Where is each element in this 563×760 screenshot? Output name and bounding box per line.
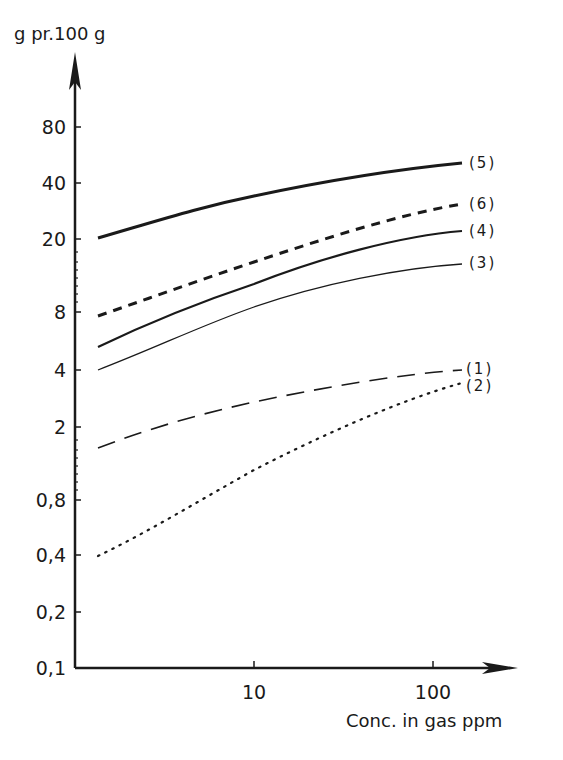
y-tick-40: 40 — [42, 172, 66, 194]
series-label-6: (6) — [469, 195, 496, 213]
series-label-5: (5) — [469, 154, 496, 172]
y-axis-title: g pr.100 g — [14, 23, 106, 44]
y-tick-labels: 80 40 20 8 4 2 0,8 0,4 0,2 0,1 — [36, 116, 66, 679]
y-tick-8: 8 — [54, 301, 66, 323]
y-tick-0-4: 0,4 — [36, 544, 66, 566]
y-tick-0-2: 0,2 — [36, 601, 66, 623]
y-axis — [69, 52, 81, 668]
y-tick-20: 20 — [42, 228, 66, 250]
y-tick-80: 80 — [42, 116, 66, 138]
series-3-curve — [98, 264, 462, 370]
series-label-4: (4) — [469, 222, 496, 240]
y-tick-0-1: 0,1 — [36, 657, 66, 679]
y-tick-0-8: 0,8 — [36, 489, 66, 511]
y-tick-4: 4 — [54, 359, 66, 381]
x-tick-100: 100 — [415, 681, 451, 703]
y-tick-2: 2 — [54, 416, 66, 438]
series-label-2: (2) — [466, 377, 493, 395]
series-5-curve — [98, 163, 462, 238]
series-1-curve — [98, 370, 462, 448]
x-axis-title: Conc. in gas ppm — [346, 710, 502, 731]
series-labels: (5) (6) (4) (3) (1) (2) — [466, 154, 496, 395]
series-4-curve — [98, 231, 462, 347]
series-2-curve — [98, 383, 462, 556]
x-axis — [75, 661, 518, 674]
series-label-1: (1) — [466, 360, 493, 378]
series-label-3: (3) — [469, 254, 496, 272]
log-log-chart: g pr.100 g 80 40 20 8 4 2 — [0, 0, 563, 760]
x-tick-10: 10 — [242, 681, 266, 703]
